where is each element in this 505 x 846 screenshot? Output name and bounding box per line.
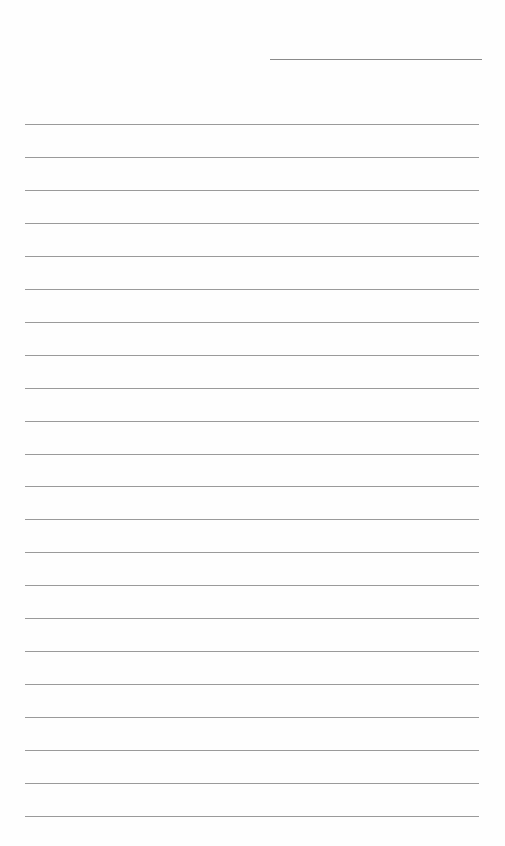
ruled-line [25,355,479,356]
ruled-line [25,816,479,817]
ruled-line [25,124,479,125]
ruled-line [25,388,479,389]
ruled-line [25,322,479,323]
ruled-line [25,750,479,751]
ruled-line [25,618,479,619]
ruled-line [25,454,479,455]
ruled-line [25,223,479,224]
ruled-line [25,783,479,784]
ruled-line [25,486,479,487]
ruled-line [25,256,479,257]
ruled-line [25,651,479,652]
lined-page [0,0,505,846]
ruled-line [25,519,479,520]
ruled-line [25,717,479,718]
ruled-line [25,289,479,290]
ruled-line [25,684,479,685]
ruled-line [25,157,479,158]
header-name-line [270,59,482,60]
ruled-line [25,190,479,191]
ruled-line [25,585,479,586]
ruled-line [25,552,479,553]
ruled-line [25,421,479,422]
